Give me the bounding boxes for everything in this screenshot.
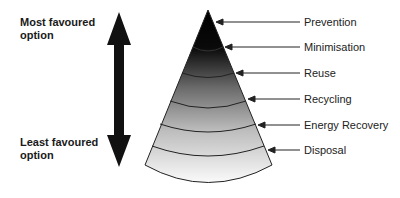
most-favoured-line1: Most favoured — [20, 16, 110, 29]
favour-scale-arrow — [107, 12, 131, 167]
level-energy-recovery: Energy Recovery — [304, 119, 388, 132]
most-favoured-line2: option — [20, 29, 110, 42]
hierarchy-cone — [145, 10, 272, 183]
level-prevention: Prevention — [304, 16, 357, 29]
level-disposal: Disposal — [304, 144, 346, 157]
least-favoured-label: Least favoured option — [20, 136, 110, 162]
least-favoured-line2: option — [20, 149, 110, 162]
most-favoured-label: Most favoured option — [20, 16, 110, 42]
level-recycling: Recycling — [304, 93, 352, 106]
least-favoured-line1: Least favoured — [20, 136, 110, 149]
level-minimisation: Minimisation — [304, 41, 365, 54]
level-reuse: Reuse — [304, 67, 336, 80]
